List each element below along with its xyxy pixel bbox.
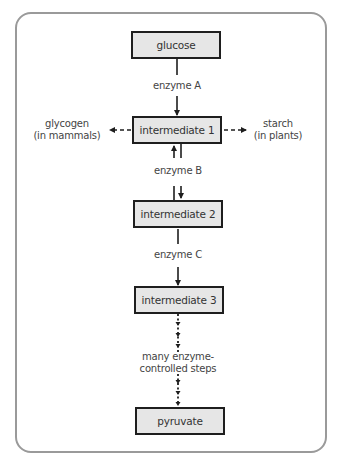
node-label: intermediate 2: [141, 208, 216, 220]
side-product-starch: starch (in plants): [248, 118, 308, 142]
edge-label-enzyme-a: enzyme A: [147, 80, 207, 92]
node-intermediate-3: intermediate 3: [134, 286, 224, 314]
side-product-glycogen: glycogen (in mammals): [26, 118, 108, 142]
edge-label-many-steps: many enzyme- controlled steps: [128, 351, 228, 375]
edge-label-enzyme-b: enzyme B: [147, 165, 209, 177]
node-pyruvate: pyruvate: [135, 407, 225, 435]
edge-label-enzyme-c: enzyme C: [147, 249, 209, 261]
node-label: pyruvate: [157, 415, 202, 427]
edge-label-line: many enzyme-: [128, 351, 228, 363]
side-product-note: (in plants): [248, 130, 308, 142]
side-product-name: starch: [248, 118, 308, 130]
connector-lines: [0, 0, 345, 465]
side-product-name: glycogen: [26, 118, 108, 130]
node-intermediate-1: intermediate 1: [132, 116, 222, 144]
node-intermediate-2: intermediate 2: [133, 200, 223, 228]
edge-label-line: controlled steps: [128, 363, 228, 375]
node-glucose: glucose: [131, 31, 221, 59]
node-label: intermediate 3: [142, 294, 217, 306]
node-label: intermediate 1: [140, 124, 215, 136]
side-product-note: (in mammals): [26, 130, 108, 142]
node-label: glucose: [157, 39, 196, 51]
